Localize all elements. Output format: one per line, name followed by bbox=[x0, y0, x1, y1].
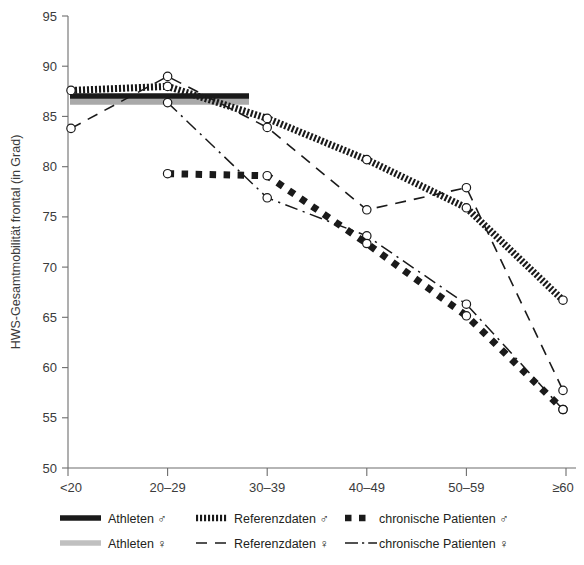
data-point bbox=[462, 204, 470, 212]
legend-label-referenzdaten-male: Referenzdaten ♂ bbox=[234, 512, 329, 526]
data-point bbox=[559, 386, 567, 394]
data-point bbox=[263, 194, 271, 202]
y-tick-label-95: 95 bbox=[43, 9, 57, 24]
data-point bbox=[163, 98, 171, 106]
y-tick-label-80: 80 bbox=[43, 159, 57, 174]
legend-item-athleten-female[interactable]: Athleten ♀ bbox=[60, 537, 167, 551]
data-point bbox=[363, 239, 371, 247]
data-point bbox=[363, 155, 371, 163]
x-axis: <20 20–29 30–39 40–49 50–59 ≥60 bbox=[60, 468, 576, 495]
legend-item-chronische-patienten-male[interactable]: chronische Patienten ♂ bbox=[345, 512, 509, 526]
data-point bbox=[559, 405, 567, 413]
x-tick-label-3: 30–39 bbox=[249, 480, 285, 495]
series-chronische-patienten-female bbox=[163, 98, 567, 413]
legend-label-chronische-patienten-male: chronische Patienten ♂ bbox=[379, 512, 509, 526]
data-point bbox=[559, 296, 567, 304]
y-axis: 95 90 85 80 75 70 65 60 55 50 bbox=[43, 9, 68, 476]
legend-item-referenzdaten-male[interactable]: Referenzdaten ♂ bbox=[196, 512, 329, 526]
chronische-patienten-female-line bbox=[168, 103, 563, 410]
referenzdaten-male-line bbox=[71, 86, 563, 300]
legend-item-referenzdaten-female[interactable]: Referenzdaten ♀ bbox=[196, 537, 329, 551]
data-point bbox=[462, 184, 470, 192]
legend-label-referenzdaten-female: Referenzdaten ♀ bbox=[234, 537, 329, 551]
series-referenzdaten-male bbox=[67, 82, 567, 304]
y-tick-marks bbox=[62, 16, 68, 468]
data-point bbox=[363, 206, 371, 214]
x-tick-label-1: <20 bbox=[60, 480, 82, 495]
chart-canvas: 95 90 85 80 75 70 65 60 55 50 HWS-Gesamt… bbox=[0, 0, 584, 565]
x-tick-label-4: 40–49 bbox=[349, 480, 385, 495]
data-point bbox=[462, 312, 470, 320]
y-tick-label-60: 60 bbox=[43, 360, 57, 375]
legend-item-athleten-male[interactable]: Athleten ♂ bbox=[60, 512, 167, 526]
y-tick-label-55: 55 bbox=[43, 410, 57, 425]
x-tick-label-5: 50–59 bbox=[448, 480, 484, 495]
data-point bbox=[263, 172, 271, 180]
y-tick-label-50: 50 bbox=[43, 461, 57, 476]
legend-label-athleten-male: Athleten ♂ bbox=[108, 512, 167, 526]
chart-figure: 95 90 85 80 75 70 65 60 55 50 HWS-Gesamt… bbox=[0, 0, 584, 565]
legend-item-chronische-patienten-female[interactable]: chronische Patienten ♀ bbox=[345, 537, 509, 551]
data-point bbox=[163, 72, 171, 80]
x-tick-label-2: 20–29 bbox=[150, 480, 186, 495]
y-tick-label-65: 65 bbox=[43, 310, 57, 325]
y-tick-label-90: 90 bbox=[43, 59, 57, 74]
x-tick-label-6: ≥60 bbox=[552, 480, 574, 495]
y-tick-label-85: 85 bbox=[43, 109, 57, 124]
data-point bbox=[67, 124, 75, 132]
y-tick-label-75: 75 bbox=[43, 209, 57, 224]
chart-legend: Athleten ♂ Referenzdaten ♂ chronische Pa… bbox=[60, 512, 509, 551]
legend-label-athleten-female: Athleten ♀ bbox=[108, 537, 167, 551]
y-tick-label-70: 70 bbox=[43, 260, 57, 275]
data-point bbox=[263, 114, 271, 122]
y-axis-title: HWS-Gesamtmobilität frontal (in Grad) bbox=[9, 135, 23, 350]
data-point bbox=[163, 170, 171, 178]
data-point bbox=[263, 123, 271, 131]
data-point bbox=[462, 300, 470, 308]
data-point bbox=[67, 86, 75, 94]
data-point bbox=[163, 82, 171, 90]
legend-label-chronische-patienten-female: chronische Patienten ♀ bbox=[379, 537, 509, 551]
